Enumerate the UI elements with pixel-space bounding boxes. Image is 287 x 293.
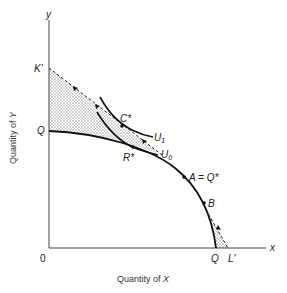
point-b — [202, 201, 206, 205]
origin-label: 0 — [40, 253, 46, 264]
label-b: B — [208, 198, 215, 209]
label-l-prime: L' — [228, 253, 237, 264]
label-u1: U1 — [154, 132, 165, 144]
point-a — [182, 175, 186, 179]
point-r-star — [131, 145, 135, 149]
label-c-star: C* — [120, 113, 132, 124]
point-c-star — [120, 124, 124, 128]
x-axis-title: Quantity of X — [117, 274, 170, 284]
label-k-prime: K' — [34, 63, 44, 74]
label-a-eq-q-star: A = Q* — [188, 172, 219, 183]
label-u0: U0 — [161, 149, 172, 161]
label-q-y: Q — [37, 125, 45, 136]
ppf-trade-diagram: y x 0 K' Q C* R* A = Q* B Q L' U1 U0 Qua… — [0, 0, 287, 293]
y-axis-title: Quantity of Y — [8, 111, 18, 164]
label-r-star: R* — [123, 152, 135, 163]
label-q-x: Q — [211, 253, 219, 264]
x-axis-label: x — [269, 242, 276, 253]
y-axis-label: y — [45, 9, 52, 20]
